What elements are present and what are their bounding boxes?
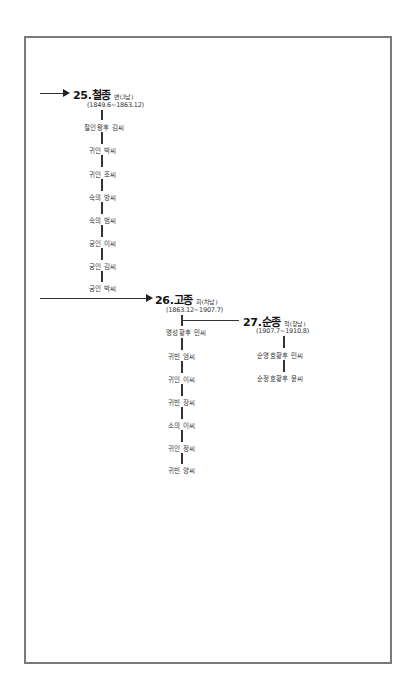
connector-line <box>283 360 285 372</box>
king-tag: 변(3남) <box>114 93 133 100</box>
consort-item: 궁인 박씨 <box>89 283 117 293</box>
connector-line <box>181 407 183 419</box>
connector-line <box>181 338 183 350</box>
reign-period-cheoljong: (1849.6~1863.12) <box>87 101 144 109</box>
connector-line <box>181 453 183 464</box>
consort-item: 명성황후 민씨 <box>166 327 206 337</box>
succession-branch-line <box>181 320 239 321</box>
connector-line <box>181 384 183 396</box>
connector-line <box>101 202 103 214</box>
consort-item: 귀인 박씨 <box>89 145 117 155</box>
page-frame <box>24 36 392 664</box>
connector-line <box>101 132 103 144</box>
connector-line <box>181 361 183 373</box>
connector-line <box>101 155 103 167</box>
consort-item: 소의 이씨 <box>168 420 196 430</box>
consort-item: 순정효황후 윤씨 <box>257 373 303 383</box>
consort-item: 궁인 김씨 <box>89 261 117 271</box>
consort-item: 철인왕후 김씨 <box>84 122 124 132</box>
consort-item: 숙의 방씨 <box>89 192 117 202</box>
connector-line <box>181 430 183 442</box>
king-title-cheoljong: 25.철종변(3남) <box>73 86 133 102</box>
consort-item: 궁인 이씨 <box>89 238 117 248</box>
consort-item: 귀인 이씨 <box>168 374 196 384</box>
connector-line <box>101 179 103 191</box>
connector-line <box>101 271 103 282</box>
consort-item: 귀인 정씨 <box>168 443 196 453</box>
reign-period-sunjong: (1907.7~1910.8) <box>256 327 309 335</box>
connector-line <box>101 110 103 120</box>
consort-item: 귀빈 장씨 <box>168 397 196 407</box>
consort-item: 귀인 조씨 <box>89 169 117 179</box>
connector-line <box>101 248 103 260</box>
connector-line <box>101 225 103 237</box>
king-tag: 희(차남) <box>196 298 217 305</box>
connector-line <box>283 336 285 348</box>
consort-item: 숙의 범씨 <box>89 215 117 225</box>
consort-item: 귀빈 엄씨 <box>168 351 196 361</box>
king-tag: 척(장남) <box>284 320 305 327</box>
king-title-gojong: 26.고종희(차남) <box>155 291 217 307</box>
consort-item: 귀빈 양씨 <box>168 465 196 475</box>
reign-period-gojong: (1863.12~1907.7) <box>166 306 223 314</box>
consort-item: 순명효황후 민씨 <box>257 350 303 360</box>
